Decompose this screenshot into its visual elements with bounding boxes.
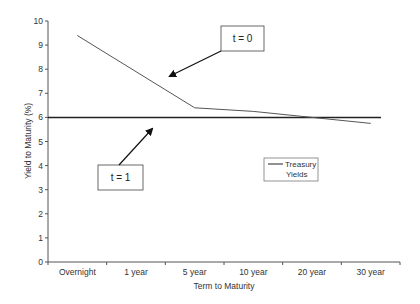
y-tick-label: 2	[38, 209, 43, 219]
x-category-label: 20 year	[298, 267, 327, 277]
x-axis-title: Term to Maturity	[194, 281, 256, 291]
y-ticks: 012345678910	[34, 16, 48, 267]
x-category-label: Overnight	[59, 267, 96, 277]
x-category-label: 30 year	[356, 267, 385, 277]
y-tick-label: 1	[38, 233, 43, 243]
y-tick-label: 3	[38, 185, 43, 195]
annotation-t1: t = 1	[98, 129, 152, 190]
x-category-label: 5 year	[183, 267, 207, 277]
arrow-t0	[170, 51, 221, 76]
y-tick-label: 10	[34, 16, 44, 26]
y-axis-title: Yield to Maturity (%)	[23, 103, 33, 179]
x-category-label: 1 year	[124, 267, 148, 277]
y-tick-label: 4	[38, 161, 43, 171]
annotation-t0: t = 0	[170, 26, 264, 76]
y-tick-label: 7	[38, 88, 43, 98]
svg-text:Treasury: Treasury	[285, 160, 316, 169]
svg-text:t = 1: t = 1	[111, 172, 131, 183]
y-tick-label: 8	[38, 64, 43, 74]
svg-text:Yields: Yields	[286, 170, 308, 179]
y-tick-label: 9	[38, 40, 43, 50]
yield-curve-chart: 012345678910 Overnight1 year5 year10 yea…	[0, 0, 420, 304]
legend: Treasury Yields	[264, 158, 318, 181]
x-ticks: Overnight1 year5 year10 year20 year30 ye…	[48, 262, 400, 277]
y-tick-label: 6	[38, 112, 43, 122]
y-tick-label: 5	[38, 137, 43, 147]
arrow-t1	[119, 129, 152, 165]
svg-text:t = 0: t = 0	[233, 33, 253, 44]
y-tick-label: 0	[38, 257, 43, 267]
x-category-label: 10 year	[239, 267, 268, 277]
